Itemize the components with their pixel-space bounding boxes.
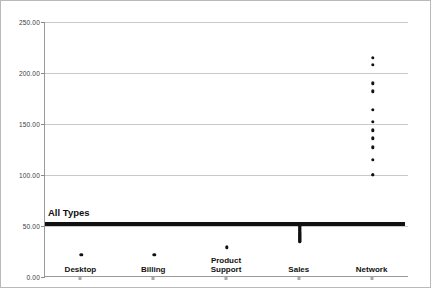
data-point: [371, 128, 374, 131]
data-point: [225, 246, 228, 249]
y-tick-mark: [41, 226, 45, 227]
chart-root: 250.00200.00150.00100.0050.000.00 All Ty…: [0, 0, 433, 290]
x-category-label-product-support: ProductSupport: [211, 256, 242, 275]
gridline: [45, 175, 408, 176]
x-category-label-sales: Sales: [288, 265, 309, 275]
all-types-reference-line: [45, 222, 405, 226]
y-tick-label: 0.00: [27, 274, 40, 281]
gridline: [45, 226, 408, 227]
gridline: [45, 124, 408, 125]
plot-area: 250.00200.00150.00100.0050.000.00 All Ty…: [44, 22, 408, 277]
data-point: [371, 81, 374, 84]
data-point: [80, 253, 83, 256]
data-point: [152, 253, 155, 256]
x-tick-mark: [370, 277, 373, 280]
x-category-label-desktop: Desktop: [65, 265, 97, 275]
data-point: [371, 146, 374, 149]
y-tick-mark: [41, 277, 45, 278]
y-tick-mark: [41, 73, 45, 74]
y-tick-label: 200.00: [19, 70, 40, 77]
x-category-label-line: Network: [356, 265, 388, 275]
x-tick-mark: [297, 277, 300, 280]
x-category-label-line: Product: [211, 256, 242, 266]
x-tick-mark: [225, 277, 228, 280]
all-types-label: All Types: [48, 207, 90, 218]
y-tick-mark: [41, 175, 45, 176]
gridline: [45, 73, 408, 74]
x-category-label-network: Network: [356, 265, 388, 275]
gridline: [45, 22, 408, 23]
x-category-label-line: Sales: [288, 265, 309, 275]
data-point: [371, 173, 374, 176]
data-point: [371, 137, 374, 140]
data-point: [371, 158, 374, 161]
x-category-label-line: Support: [211, 265, 242, 275]
y-tick-label: 150.00: [19, 121, 40, 128]
data-point: [371, 63, 374, 66]
y-tick-label: 250.00: [19, 19, 40, 26]
x-tick-mark: [152, 277, 155, 280]
data-point: [371, 90, 374, 93]
data-point: [371, 56, 374, 59]
data-point: [371, 108, 374, 111]
x-category-label-billing: Billing: [141, 265, 165, 275]
x-category-label-line: Desktop: [65, 265, 97, 275]
y-tick-mark: [41, 22, 45, 23]
y-tick-mark: [41, 124, 45, 125]
y-tick-label: 50.00: [23, 223, 40, 230]
x-category-label-line: Billing: [141, 265, 165, 275]
y-tick-label: 100.00: [19, 172, 40, 179]
x-tick-mark: [79, 277, 82, 280]
